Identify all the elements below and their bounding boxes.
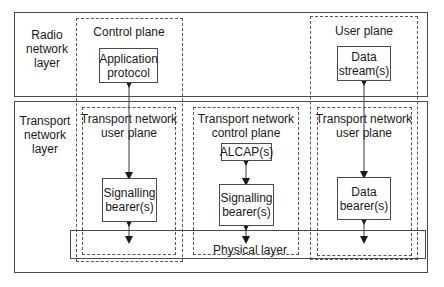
application-protocol-box: Application protocol [99,48,158,83]
data-streams-box: Data stream(s) [337,46,391,81]
signalling-bearer-mid-box: Signalling bearer(s) [219,184,274,226]
signalling-bearer-left-box: Signalling bearer(s) [102,178,157,222]
data-bearer-box: Data bearer(s) [337,177,391,220]
alcap-box: ALCAP(s) [221,143,272,161]
